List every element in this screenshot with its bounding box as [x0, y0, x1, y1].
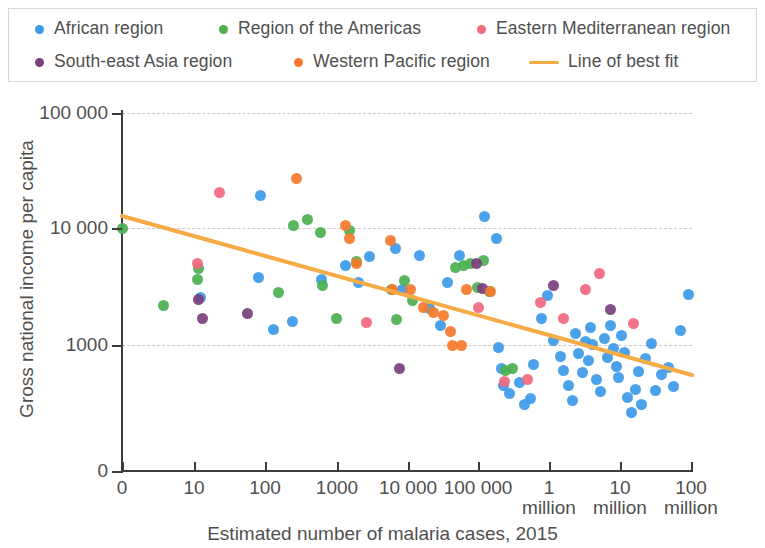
- scatter-point: [573, 348, 584, 359]
- scatter-point: [485, 286, 496, 297]
- scatter-point: [583, 355, 594, 366]
- x-axis-tick: [478, 462, 480, 471]
- scatter-point: [491, 233, 502, 244]
- scatter-point: [548, 280, 559, 291]
- x-axis-tick-label: 100: [249, 478, 281, 498]
- y-axis-tick-label: 10 000: [50, 218, 108, 237]
- scatter-point: [454, 250, 465, 261]
- legend-label-western-pacific: Western Pacific region: [313, 53, 490, 71]
- scatter-point: [683, 289, 694, 300]
- scatter-point: [585, 322, 596, 333]
- gridline: [122, 228, 692, 230]
- scatter-point: [613, 372, 624, 383]
- scatter-point: [663, 362, 674, 373]
- legend-label-americas: Region of the Americas: [238, 20, 421, 38]
- line-of-best-fit: [0, 0, 765, 548]
- legend-item-line-of-best-fit[interactable]: Line of best fit: [529, 53, 679, 71]
- x-axis-tick: [620, 462, 622, 471]
- x-axis-line: [121, 470, 693, 472]
- scatter-point: [385, 235, 396, 246]
- x-axis-tick-label: 1million: [522, 478, 576, 518]
- scatter-point: [619, 347, 630, 358]
- scatter-point: [288, 220, 299, 231]
- scatter-point: [192, 258, 203, 269]
- x-axis-tick-label: 10million: [593, 478, 647, 518]
- scatter-point: [351, 258, 362, 269]
- y-axis-tick-label: 1000: [66, 335, 108, 354]
- scatter-point: [555, 351, 566, 362]
- scatter-point: [445, 326, 456, 337]
- scatter-point: [442, 277, 453, 288]
- scatter-point: [536, 313, 547, 324]
- scatter-point: [253, 272, 264, 283]
- scatter-point: [479, 211, 490, 222]
- scatter-point: [522, 374, 533, 385]
- legend-marker-line-best-fit: [529, 61, 559, 64]
- scatter-point: [594, 268, 605, 279]
- y-axis-line: [121, 110, 123, 473]
- x-axis-tick: [691, 462, 693, 471]
- scatter-point: [255, 190, 266, 201]
- scatter-point: [242, 308, 253, 319]
- scatter-point: [407, 295, 418, 306]
- scatter-point: [405, 284, 416, 295]
- y-axis-tick: [112, 345, 122, 347]
- scatter-point: [548, 335, 559, 346]
- scatter-point: [675, 325, 686, 336]
- y-axis-tick: [112, 228, 122, 230]
- scatter-point: [361, 317, 372, 328]
- scatter-point: [291, 173, 302, 184]
- scatter-point: [611, 361, 622, 372]
- scatter-point: [636, 399, 647, 410]
- scatter-point: [214, 187, 225, 198]
- scatter-point: [158, 300, 169, 311]
- chart-legend: African region Region of the Americas Ea…: [8, 8, 757, 82]
- x-axis-tick-label: 0: [117, 478, 128, 498]
- scatter-point: [317, 280, 328, 291]
- gridline: [122, 345, 692, 347]
- legend-item-western-pacific[interactable]: Western Pacific region: [294, 53, 490, 71]
- x-axis-tick: [265, 462, 267, 471]
- scatter-point: [197, 313, 208, 324]
- scatter-point: [605, 304, 616, 315]
- scatter-point: [331, 313, 342, 324]
- scatter-point: [315, 227, 326, 238]
- scatter-point: [528, 359, 539, 370]
- scatter-point: [418, 302, 429, 313]
- x-axis-title: Estimated number of malaria cases, 2015: [0, 523, 765, 545]
- x-axis-tick: [194, 462, 196, 471]
- legend-label-eastern-mediterranean: Eastern Mediterranean region: [496, 20, 730, 38]
- y-axis-tick-label: 0: [97, 461, 108, 480]
- x-axis-tick: [337, 462, 339, 471]
- x-axis-tick: [122, 462, 124, 471]
- scatter-point: [428, 307, 439, 318]
- y-axis-tick-label: 100 000: [39, 103, 108, 122]
- scatter-point: [580, 284, 591, 295]
- scatter-point: [394, 363, 405, 374]
- scatter-point: [628, 318, 639, 329]
- scatter-point: [525, 393, 536, 404]
- scatter-point: [435, 320, 446, 331]
- x-axis-tick-label: 100 000: [444, 478, 513, 498]
- scatter-point: [595, 386, 606, 397]
- legend-item-americas[interactable]: Region of the Americas: [219, 20, 421, 38]
- x-axis-tick: [408, 462, 410, 471]
- scatter-point: [570, 328, 581, 339]
- x-axis-tick: [549, 462, 551, 471]
- scatter-point: [387, 284, 398, 295]
- scatter-point: [558, 365, 569, 376]
- scatter-point: [591, 374, 602, 385]
- y-axis-title: Gross national income per capita: [16, 84, 38, 474]
- y-axis-tick: [112, 113, 122, 115]
- scatter-point: [599, 333, 610, 344]
- x-axis-tick-label: 10: [183, 478, 204, 498]
- scatter-point: [633, 366, 644, 377]
- legend-marker-dot-eastern-mediterranean: [477, 25, 486, 34]
- scatter-point: [558, 313, 569, 324]
- scatter-point: [414, 250, 425, 261]
- y-axis-tick: [112, 471, 122, 473]
- scatter-point: [563, 380, 574, 391]
- scatter-point: [340, 220, 351, 231]
- legend-item-eastern-mediterranean[interactable]: Eastern Mediterranean region: [477, 20, 730, 38]
- scatter-point: [438, 310, 449, 321]
